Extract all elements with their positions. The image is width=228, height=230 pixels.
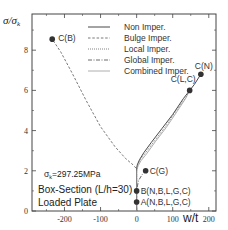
y-axis-label: σ/σk bbox=[3, 14, 21, 28]
y-tick-label: 0 bbox=[24, 207, 28, 216]
x-axis-label: w/t bbox=[182, 211, 199, 225]
data-point bbox=[49, 36, 55, 42]
plate-note: Loaded Plate bbox=[38, 197, 97, 208]
x-tick-label: 100 bbox=[167, 215, 179, 224]
legend: Non Imper.Bulge Imper.Local Imper.Global… bbox=[88, 22, 189, 76]
section-note: Box-Section (L/h=30) bbox=[38, 184, 132, 195]
x-tick-label: -200 bbox=[57, 215, 72, 224]
y-tick-label: 2 bbox=[24, 167, 28, 176]
chart: -200-100010020002468 C(B)C(N)C(L,C)C(G)B… bbox=[0, 0, 228, 230]
point-label: C(N) bbox=[195, 61, 213, 71]
y-tick-label: 6 bbox=[24, 86, 28, 95]
point-label: C(B) bbox=[58, 33, 76, 43]
y-tick-label: 8 bbox=[24, 46, 28, 55]
legend-label: Global Imper. bbox=[124, 55, 175, 65]
point-label: C(G) bbox=[150, 166, 169, 176]
legend-label: Combined Imper. bbox=[124, 66, 189, 76]
data-point bbox=[134, 199, 140, 205]
y-tick-label: 4 bbox=[24, 127, 28, 136]
data-point bbox=[198, 72, 204, 78]
point-label: A(N,B,L,G,C) bbox=[141, 197, 191, 207]
data-point bbox=[134, 188, 140, 194]
data-point bbox=[143, 168, 149, 174]
x-tick-label: -100 bbox=[93, 215, 108, 224]
x-tick-label: 0 bbox=[135, 215, 139, 224]
legend-label: Bulge Imper. bbox=[124, 33, 172, 43]
legend-label: Local Imper. bbox=[124, 44, 170, 54]
x-tick-label: 200 bbox=[203, 215, 215, 224]
legend-label: Non Imper. bbox=[124, 22, 166, 32]
data-point bbox=[187, 88, 193, 94]
sigma-k-note: σk=297.25MPa bbox=[44, 169, 101, 180]
point-label: B(N,B,L,G,C) bbox=[141, 186, 191, 196]
